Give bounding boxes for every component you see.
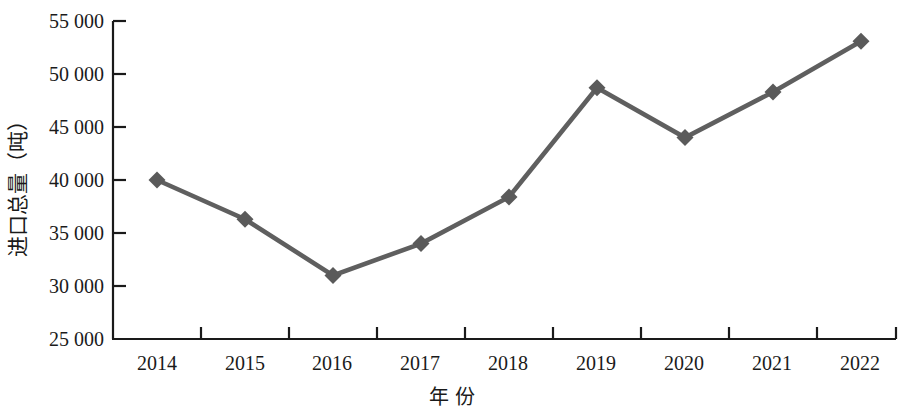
- axis-lines: [112, 21, 896, 339]
- data-point-marker: [149, 172, 166, 189]
- data-point-marker: [413, 235, 430, 252]
- import-volume-line-chart: 进口总量（吨） 55 000 50 000 45 000 40 000 35 0…: [0, 0, 904, 408]
- x-axis-ticks: [201, 327, 896, 339]
- plot-area: [0, 0, 904, 408]
- data-point-markers: [149, 33, 870, 284]
- data-series-line: [157, 41, 861, 275]
- y-axis-ticks: [113, 21, 126, 286]
